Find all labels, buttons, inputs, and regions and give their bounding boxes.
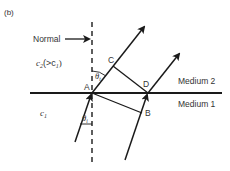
normal-label: Normal xyxy=(33,34,61,44)
point-a-label: A xyxy=(84,82,90,92)
point-c-label: C xyxy=(108,55,114,65)
panel-label: (b) xyxy=(4,8,14,17)
angle-incident-label: θi xyxy=(82,113,88,124)
refracted-ray-2 xyxy=(148,54,179,93)
incident-ray-2 xyxy=(125,95,147,160)
point-b-label: B xyxy=(145,108,151,118)
speed-medium-2-label: c2(>c1) xyxy=(36,58,62,69)
point-d-label: D xyxy=(143,79,149,89)
wavefront-ab xyxy=(92,93,142,113)
refraction-diagram: (b) Normal Medium 2 Medium 1 c2(>c1) c1 … xyxy=(0,0,230,171)
medium-1-label: Medium 1 xyxy=(178,99,216,109)
medium-2-label: Medium 2 xyxy=(178,76,216,86)
speed-medium-1-label: c1 xyxy=(40,108,47,119)
